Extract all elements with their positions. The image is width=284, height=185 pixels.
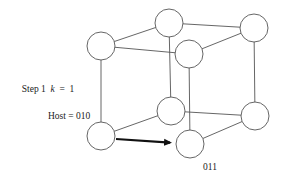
k-variable: k: [51, 84, 55, 94]
node-bottom-back: [157, 97, 185, 125]
routing-arrow-group: [116, 139, 170, 143]
step-label: Step 1 k = 1: [17, 75, 74, 94]
k-value: 1: [70, 84, 75, 94]
step-text: Step 1: [22, 84, 46, 94]
node-top-left-front: [87, 32, 115, 60]
node-top-right-back: [240, 14, 268, 42]
node-host-010: [87, 122, 115, 150]
node-dest-011: [176, 130, 204, 158]
node-bottom-right-back: [241, 102, 269, 130]
equals-sign: =: [59, 84, 64, 94]
node-top-front-right: [175, 40, 203, 68]
nodes-group: [87, 9, 269, 158]
edges-group: [101, 23, 255, 144]
host-label: Host = 010: [48, 112, 90, 122]
destination-label: 011: [203, 163, 217, 173]
node-top-back: [155, 9, 183, 37]
route-arrow-icon: [116, 139, 170, 143]
